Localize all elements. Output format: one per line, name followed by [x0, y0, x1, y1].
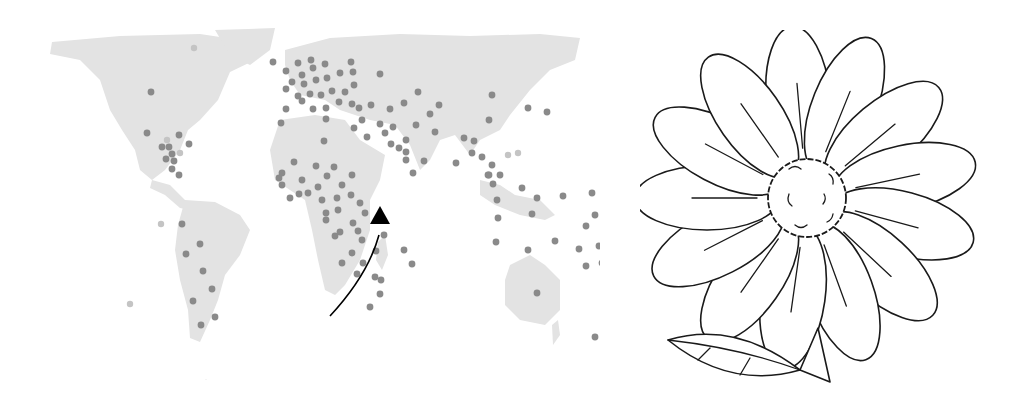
triangle-arrow-icon: [370, 206, 390, 224]
new-zealand-landmass: [552, 320, 560, 345]
africa-landmass: [270, 115, 385, 295]
daisy-drawing: [640, 30, 980, 390]
world-map-svg: [40, 20, 600, 380]
north-america-landmass: [50, 34, 255, 180]
south-america-landmass: [175, 200, 250, 342]
world-map: [40, 20, 600, 380]
flower-center: [768, 159, 846, 237]
daisy-svg: [640, 30, 980, 390]
daisy-flower: [640, 30, 980, 373]
australia-landmass: [505, 255, 560, 325]
